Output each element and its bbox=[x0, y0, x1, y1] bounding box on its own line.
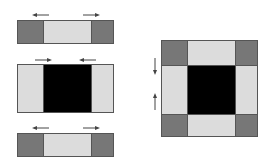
square-cell-center bbox=[187, 65, 235, 114]
assembled-square bbox=[161, 40, 258, 137]
top-strip-left-cell bbox=[18, 21, 43, 43]
bottom-strip-left-cell bbox=[18, 134, 43, 156]
arrow-left-icon bbox=[32, 12, 50, 18]
arrow-right-icon bbox=[34, 57, 52, 63]
square-cell-middle-right bbox=[235, 65, 257, 114]
arrow-up-icon bbox=[152, 93, 158, 111]
arrow-right-icon bbox=[82, 12, 100, 18]
square-cell-top-center bbox=[187, 41, 235, 65]
middle-strip-left-cell bbox=[18, 65, 43, 112]
square-cell-top-left bbox=[162, 41, 187, 65]
bottom-strip bbox=[17, 133, 114, 157]
top-strip-right-cell bbox=[91, 21, 113, 43]
square-cell-bottom-left bbox=[162, 114, 187, 136]
square-cell-bottom-center bbox=[187, 114, 235, 136]
square-cell-bottom-right bbox=[235, 114, 257, 136]
arrow-left-icon bbox=[32, 125, 50, 131]
square-cell-top-right bbox=[235, 41, 257, 65]
bottom-strip-center-cell bbox=[43, 134, 91, 156]
top-strip-center-cell bbox=[43, 21, 91, 43]
arrow-left-icon bbox=[79, 57, 97, 63]
bottom-strip-right-cell bbox=[91, 134, 113, 156]
arrow-right-icon bbox=[82, 125, 100, 131]
top-strip bbox=[17, 20, 114, 44]
square-cell-middle-left bbox=[162, 65, 187, 114]
middle-strip-right-cell bbox=[91, 65, 113, 112]
middle-strip-center-cell bbox=[43, 65, 91, 112]
arrow-down-icon bbox=[152, 57, 158, 75]
middle-strip bbox=[17, 64, 114, 113]
